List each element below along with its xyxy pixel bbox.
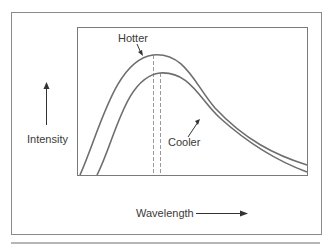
hotter-label: Hotter — [118, 32, 148, 44]
x-axis-label: Wavelength — [136, 207, 194, 219]
cooler-label: Cooler — [168, 136, 200, 148]
cooler-arrowhead-icon — [195, 119, 200, 125]
y-axis-label: Intensity — [27, 133, 68, 145]
curve-cooler — [97, 73, 307, 175]
cooler-pointer — [188, 122, 198, 137]
x-axis-arrowhead-icon — [240, 211, 248, 217]
hotter-arrowhead-icon — [138, 50, 143, 56]
plot-area — [78, 28, 308, 176]
y-axis-arrowhead-icon — [44, 82, 50, 89]
